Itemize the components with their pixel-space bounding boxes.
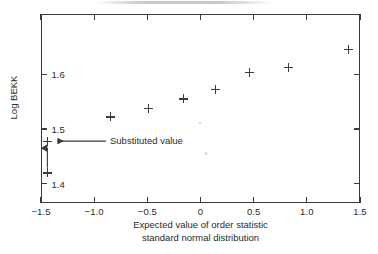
x-axis-tick-label: 0.5 [247, 206, 261, 217]
x-axis-tick-label: −1.5 [31, 206, 50, 217]
x-axis-tick [200, 197, 201, 203]
x-axis-tick [147, 197, 148, 203]
x-axis-tick [359, 197, 360, 203]
x-axis-tick-top [200, 14, 201, 20]
x-axis-tick-label: −0.5 [138, 206, 157, 217]
y-axis-tick-label: 1.6 [39, 69, 65, 80]
x-axis-tick [253, 197, 254, 203]
x-axis-title: Expected value of order statistic standa… [41, 219, 360, 244]
y-axis-tick-right [354, 128, 360, 129]
x-axis-tick-top [40, 14, 41, 20]
scan-speck [199, 122, 201, 124]
plot-frame [41, 14, 360, 203]
scan-artifact-smudge [95, 1, 275, 4]
substituted-value-annotation: Substituted value [110, 135, 183, 146]
x-axis-tick-top [359, 14, 360, 20]
x-axis-tick [94, 197, 95, 203]
y-axis-tick-right [354, 74, 360, 75]
y-axis-title: Log BEKK [8, 58, 19, 138]
x-axis-tick-top [306, 14, 307, 20]
x-axis-tick-top [147, 14, 148, 20]
x-axis-tick-label: 1.0 [300, 206, 314, 217]
x-axis-tick-label: 1.5 [353, 206, 367, 217]
x-axis-tick-top [94, 14, 95, 20]
x-axis-title-line-1: Expected value of order statistic [41, 219, 360, 232]
x-axis-tick-label: −1.0 [85, 206, 104, 217]
x-axis-tick-label: 0 [198, 206, 203, 217]
x-axis-title-line-2: standard normal distribution [41, 232, 360, 245]
x-axis-tick-top [253, 14, 254, 20]
y-axis-tick-right [354, 183, 360, 184]
figure-canvas: −1.5−1.0−0.500.51.01.51.41.51.6 Substitu… [0, 0, 378, 254]
scan-speck [205, 152, 207, 155]
x-axis-tick [306, 197, 307, 203]
y-axis-tick-label: 1.4 [39, 178, 65, 189]
y-axis-tick-label: 1.5 [39, 124, 65, 135]
x-axis-tick [40, 197, 41, 203]
